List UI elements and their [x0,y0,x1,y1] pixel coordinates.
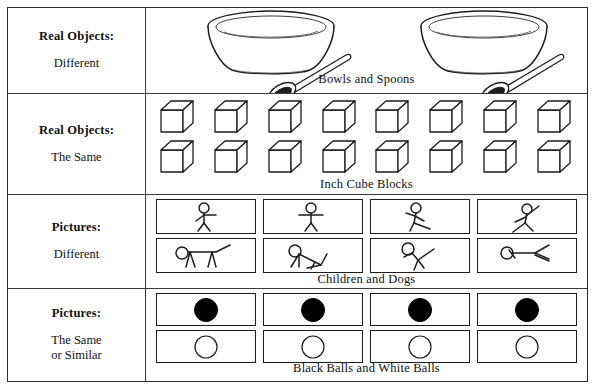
cube-grid [154,98,579,176]
cube-icon [158,98,198,136]
cube-icon [535,98,575,136]
list-item [477,199,577,234]
table-row: Real Objects: The Same [8,94,587,195]
list-item [370,199,470,234]
cube-icon [481,138,521,176]
black-ball-icon [405,295,435,325]
list-item [263,238,363,273]
list-item [263,293,363,326]
picture-card-row-children [156,199,577,234]
black-ball-icon [191,295,221,325]
row-content-inch-cube-blocks: Inch Cube Blocks [146,94,587,194]
row-caption: Black Balls and White Balls [146,361,587,376]
row-label-title: Pictures: [52,306,101,322]
row-label-pictures-different: Pictures: Different [8,195,146,288]
black-ball-icon [298,295,328,325]
ball-card-row-black [156,293,577,326]
row-label-real-objects-the-same: Real Objects: The Same [8,94,146,194]
child-stick-figure-icon [372,201,468,233]
cube-icon [320,138,360,176]
picture-card-grid [156,199,577,273]
cube-icon [427,138,467,176]
cube-row [154,138,579,176]
row-caption: Children and Dogs [146,272,587,287]
dog-stick-figure-icon [479,240,575,272]
ball-card-row-white [156,330,577,363]
cube-icon [266,138,306,176]
list-item [370,293,470,326]
list-item [156,199,256,234]
materials-chart-table: Real Objects: Different [7,7,588,382]
row-label-subtitle-second-line: or Similar [51,348,101,364]
row-label-subtitle: The Same [51,333,101,349]
cube-icon [212,98,252,136]
list-item [263,330,363,363]
table-row: Pictures: The Same or Similar [8,289,587,381]
row-label-subtitle: The Same [51,150,101,166]
table-row: Real Objects: Different [8,8,587,94]
row-caption: Inch Cube Blocks [146,177,587,192]
row-label-title: Real Objects: [39,123,114,139]
cube-icon [535,138,575,176]
list-item [156,330,256,363]
cube-icon [373,138,413,176]
cube-icon [212,138,252,176]
list-item [477,293,577,326]
cube-icon [158,138,198,176]
list-item [477,238,577,273]
list-item [263,199,363,234]
child-stick-figure-icon [158,201,254,233]
list-item [370,330,470,363]
child-stick-figure-icon [265,201,361,233]
table-row: Pictures: Different [8,195,587,289]
ball-card-grid [156,293,577,363]
cube-icon [373,98,413,136]
white-ball-icon [405,332,435,362]
dog-stick-figure-icon [158,240,254,272]
row-content-black-and-white-balls: Black Balls and White Balls [146,289,587,381]
row-content-children-and-dogs: Children and Dogs [146,195,587,288]
cube-icon [266,98,306,136]
row-content-bowls-and-spoons: Bowls and Spoons [146,8,587,93]
row-label-pictures-the-same-or-similar: Pictures: The Same or Similar [8,289,146,381]
row-label-subtitle: Different [54,247,100,263]
white-ball-icon [512,332,542,362]
child-stick-figure-icon [479,201,575,233]
dog-stick-figure-icon [372,240,468,272]
list-item [477,330,577,363]
cube-icon [481,98,521,136]
row-label-title: Real Objects: [39,29,114,45]
dog-stick-figure-icon [265,240,361,272]
white-ball-icon [298,332,328,362]
row-caption: Bowls and Spoons [146,72,587,87]
list-item [156,238,256,273]
cube-row [154,98,579,136]
black-ball-icon [512,295,542,325]
row-label-title: Pictures: [52,220,101,236]
white-ball-icon [191,332,221,362]
list-item [156,293,256,326]
row-label-subtitle: Different [54,56,100,72]
cube-icon [427,98,467,136]
picture-card-row-dogs [156,238,577,273]
list-item [370,238,470,273]
row-label-real-objects-different: Real Objects: Different [8,8,146,93]
cube-icon [320,98,360,136]
